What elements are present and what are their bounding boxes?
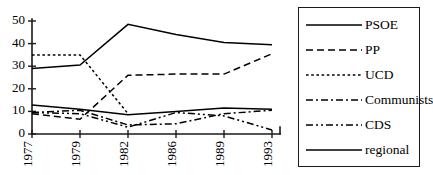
y-tick-label: 40 [12,35,25,50]
legend-swatch-dashed [305,45,363,55]
legend-label: PSOE [365,18,398,32]
x-tick-label: 1993 [260,141,275,167]
legend-label: UCD [365,68,394,82]
legend-item-psoe[interactable]: PSOE [305,15,413,35]
series-lines [32,24,272,130]
legend-list: PSOEPPUCDCommunistsCDSregional [305,15,413,160]
y-tick-label: 0 [19,125,26,140]
legend-swatch-dotted [305,70,363,80]
legend-item-communists[interactable]: Communists [305,90,413,110]
series-line-ucd [32,55,128,114]
legend: PSOEPPUCDCommunistsCDSregional [298,7,420,167]
y-tick-label: 50 [12,12,25,27]
series-line-pp [32,54,272,120]
plot-area: 01020304050 197719791982198619891993 [0,0,290,175]
x-tick-label: 1989 [212,141,227,167]
y-tick-label: 20 [12,80,25,95]
legend-item-cds[interactable]: CDS [305,115,413,135]
y-tick-label: 30 [12,57,25,72]
x-tick-label: 1977 [20,141,35,168]
series-line-psoe [32,24,272,68]
legend-label: PP [365,43,380,57]
x-axis: 197719791982198619891993 [20,127,280,167]
legend-item-ucd[interactable]: UCD [305,65,413,85]
legend-swatch-dashdot [305,95,363,105]
legend-label: CDS [365,118,391,132]
y-axis: 01020304050 [12,12,36,140]
legend-swatch-dashdotdot [305,120,363,130]
legend-swatch-solid [305,20,363,30]
series-line-cds [32,113,272,130]
x-tick-label: 1986 [164,141,179,168]
legend-swatch-solid [305,145,363,155]
line-chart-svg: 01020304050 197719791982198619891993 [0,0,290,175]
y-tick-label: 10 [12,102,25,117]
legend-item-pp[interactable]: PP [305,40,413,60]
legend-label: Communists [365,93,433,107]
x-tick-label: 1982 [116,141,131,167]
x-tick-label: 1979 [68,141,83,167]
legend-item-regional[interactable]: regional [305,140,413,160]
legend-label: regional [365,143,409,157]
